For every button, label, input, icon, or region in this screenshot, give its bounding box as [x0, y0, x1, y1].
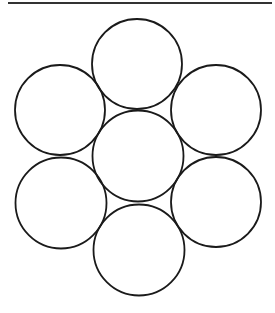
- circle-upper-left: [15, 65, 105, 155]
- circle-upper-right: [171, 65, 261, 155]
- circle-packing-diagram: [0, 0, 275, 313]
- circle-bottom: [94, 205, 185, 296]
- circle-lower-right: [171, 157, 261, 247]
- diagram-canvas: [0, 0, 275, 313]
- circle-center: [93, 111, 184, 202]
- circle-group: [15, 19, 261, 296]
- circle-top: [92, 19, 182, 109]
- circle-lower-left: [16, 158, 107, 249]
